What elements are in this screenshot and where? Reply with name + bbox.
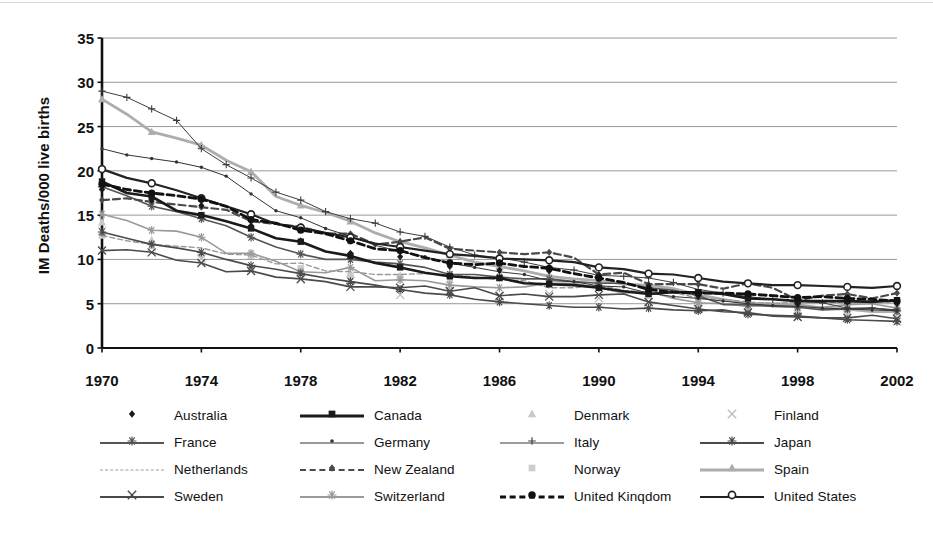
- legend-label: Australia: [168, 408, 227, 423]
- chart-legend: AustraliaCanadaDenmarkFinlandFranceGerma…: [96, 402, 896, 510]
- legend-marker: [124, 433, 140, 453]
- legend-marker: [124, 406, 140, 426]
- x-tick-label: 1998: [781, 372, 814, 389]
- legend-marker: [724, 406, 740, 426]
- legend-marker: [724, 433, 740, 453]
- legend-key-italy-icon: [496, 435, 568, 451]
- legend-line: [100, 469, 164, 470]
- legend-key-japan-icon: [696, 435, 768, 451]
- legend-marker: [324, 406, 340, 426]
- legend-label: Spain: [768, 462, 809, 477]
- legend-key-germany-icon: [296, 435, 368, 451]
- y-tick-label: 25: [77, 118, 94, 135]
- legend-marker: [524, 460, 540, 480]
- y-tick-label: 30: [77, 74, 94, 91]
- legend-marker: [724, 487, 740, 507]
- legend-item-denmark[interactable]: Denmark: [496, 402, 696, 429]
- legend-marker: [524, 433, 540, 453]
- legend-label: United Kinqdom: [568, 489, 671, 504]
- x-tick-label: 1974: [185, 372, 218, 389]
- y-tick-label: 20: [77, 162, 94, 179]
- legend-key-finland-icon: [696, 408, 768, 424]
- x-tick-label: 1986: [483, 372, 516, 389]
- legend-marker: [124, 487, 140, 507]
- legend-key-netherlands-icon: [96, 462, 168, 478]
- legend-label: New Zealand: [368, 462, 455, 477]
- legend-item-netherlands[interactable]: Netherlands: [96, 456, 296, 483]
- y-tick-label: 0: [86, 340, 94, 357]
- legend-item-switzerland[interactable]: Switzerland: [296, 483, 496, 510]
- legend-key-switzerland-icon: [296, 489, 368, 505]
- legend-item-united-kinqdom[interactable]: United Kinqdom: [496, 483, 696, 510]
- legend-marker: [324, 487, 340, 507]
- legend-item-new-zealand[interactable]: New Zealand: [296, 456, 496, 483]
- legend-key-sweden-icon: [96, 489, 168, 505]
- legend-key-spain-icon: [696, 462, 768, 478]
- chart-canvas: [0, 0, 933, 400]
- legend-key-denmark-icon: [496, 408, 568, 424]
- legend-label: Germany: [368, 435, 430, 450]
- legend-key-norway-icon: [496, 462, 568, 478]
- legend-item-norway[interactable]: Norway: [496, 456, 696, 483]
- x-tick-label: 2002: [880, 372, 913, 389]
- legend-label: Denmark: [568, 408, 629, 423]
- y-tick-label: 10: [77, 251, 94, 268]
- legend-row: AustraliaCanadaDenmarkFinland: [96, 402, 896, 429]
- legend-key-canada-icon: [296, 408, 368, 424]
- legend-label: United States: [768, 489, 856, 504]
- legend-label: Sweden: [168, 489, 223, 504]
- legend-label: Japan: [768, 435, 811, 450]
- x-tick-label: 1982: [383, 372, 416, 389]
- y-tick-label: 5: [86, 295, 94, 312]
- legend-key-france-icon: [96, 435, 168, 451]
- chart-page: IM Deaths/000 live births 05101520253035…: [0, 0, 933, 541]
- legend-item-spain[interactable]: Spain: [696, 456, 896, 483]
- legend-marker: [324, 460, 340, 480]
- legend-label: Canada: [368, 408, 422, 423]
- legend-item-finland[interactable]: Finland: [696, 402, 896, 429]
- y-tick-label: 15: [77, 207, 94, 224]
- legend-label: Switzerland: [368, 489, 445, 504]
- legend-label: France: [168, 435, 217, 450]
- x-tick-label: 1970: [85, 372, 118, 389]
- legend-marker: [724, 460, 740, 480]
- legend-row: NetherlandsNew ZealandNorwaySpain: [96, 456, 896, 483]
- x-tick-label: 1978: [284, 372, 317, 389]
- legend-label: Netherlands: [168, 462, 248, 477]
- plot-area: [0, 0, 933, 400]
- legend-label: Finland: [768, 408, 819, 423]
- legend-marker: [524, 487, 540, 507]
- legend-key-australia-icon: [96, 408, 168, 424]
- legend-label: Norway: [568, 462, 620, 477]
- legend-marker: [324, 433, 340, 453]
- legend-item-australia[interactable]: Australia: [96, 402, 296, 429]
- legend-row: FranceGermanyItalyJapan: [96, 429, 896, 456]
- legend-key-united-states-icon: [696, 489, 768, 505]
- legend-item-united-states[interactable]: United States: [696, 483, 896, 510]
- legend-item-japan[interactable]: Japan: [696, 429, 896, 456]
- legend-key-new-zealand-icon: [296, 462, 368, 478]
- x-axis-ticks: 197019741978198219861990199419982002: [0, 360, 933, 390]
- legend-item-sweden[interactable]: Sweden: [96, 483, 296, 510]
- legend-item-germany[interactable]: Germany: [296, 429, 496, 456]
- legend-item-italy[interactable]: Italy: [496, 429, 696, 456]
- legend-item-france[interactable]: France: [96, 429, 296, 456]
- y-tick-label: 35: [77, 30, 94, 47]
- x-tick-label: 1994: [682, 372, 715, 389]
- legend-row: SwedenSwitzerlandUnited KinqdomUnited St…: [96, 483, 896, 510]
- y-axis-ticks: 05101520253035: [58, 0, 94, 400]
- legend-marker: [524, 406, 540, 426]
- x-tick-label: 1990: [582, 372, 615, 389]
- legend-item-canada[interactable]: Canada: [296, 402, 496, 429]
- legend-key-united-kinqdom-icon: [496, 489, 568, 505]
- legend-label: Italy: [568, 435, 599, 450]
